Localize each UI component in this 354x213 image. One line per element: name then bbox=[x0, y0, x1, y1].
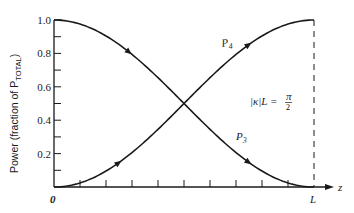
annotation-kappa-L: |κ|L = bbox=[250, 95, 277, 107]
arrow-p4-lower-icon bbox=[114, 161, 121, 168]
y-tick-label: 0.2 bbox=[37, 148, 51, 160]
x-axis-arrow-icon bbox=[325, 184, 334, 190]
y-ticks bbox=[54, 37, 61, 171]
series-label-p3: P3 bbox=[235, 130, 247, 145]
y-tick-label: 0.8 bbox=[37, 47, 51, 59]
coupled-power-chart: 0.20.40.60.81.0 0 L z P4 P3 |κ|L = π 2 P… bbox=[0, 0, 354, 213]
y-tick-label: 0.6 bbox=[37, 81, 51, 93]
annotation-two: 2 bbox=[286, 103, 290, 112]
x-tick-label-0: 0 bbox=[50, 193, 56, 205]
x-axis-label: z bbox=[337, 181, 343, 193]
y-tick-label: 0.4 bbox=[37, 114, 51, 126]
annotation-pi: π bbox=[286, 90, 292, 102]
x-ticks bbox=[80, 180, 288, 187]
x-tick-label-L: L bbox=[309, 193, 316, 205]
y-tick-labels: 0.20.40.60.81.0 bbox=[37, 14, 51, 160]
y-axis-label: Power (fraction of PTOTAL) bbox=[8, 54, 23, 173]
series-label-p4: P4 bbox=[220, 36, 234, 52]
y-tick-label: 1.0 bbox=[37, 14, 51, 26]
